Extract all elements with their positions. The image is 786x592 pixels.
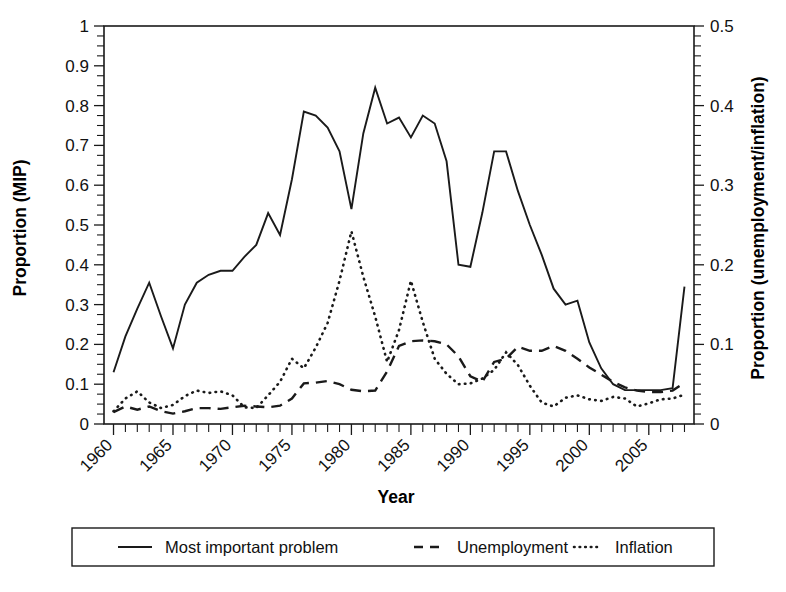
- y-tick-label-left: 0.2: [65, 335, 89, 354]
- y-tick-label-right: 0.2: [710, 256, 734, 275]
- chart-figure: 1960196519701975198019851990199520002005…: [0, 0, 786, 592]
- chart-legend: Most important problemUnemploymentInflat…: [72, 528, 714, 566]
- series-line-unemployment: [114, 340, 685, 413]
- y-tick-label-right: 0: [710, 415, 719, 434]
- y-tick-label-left: 0.5: [65, 216, 89, 235]
- series-line-inflation: [114, 231, 685, 411]
- y-tick-label-left: 0.9: [65, 57, 89, 76]
- y-tick-label-left: 0: [80, 415, 89, 434]
- x-tick-label: 1975: [255, 435, 295, 475]
- x-tick-label: 1990: [433, 435, 473, 475]
- x-axis-tick-labels: 1960196519701975198019851990199520002005: [76, 435, 651, 475]
- y-tick-label-left: 1: [80, 17, 89, 36]
- x-axis-ticks: [114, 424, 685, 435]
- y-axis-left-ticks: [94, 26, 104, 424]
- legend-label: Inflation: [615, 538, 673, 556]
- y-tick-label-right: 0.5: [710, 17, 734, 36]
- y-axis-left-tick-labels: 00.10.20.30.40.50.60.70.80.91: [65, 17, 89, 434]
- y-tick-label-left: 0.1: [65, 375, 89, 394]
- x-tick-label: 1995: [492, 435, 532, 475]
- x-tick-label: 2000: [552, 435, 592, 475]
- x-tick-label: 1985: [374, 435, 414, 475]
- series-lines: [114, 88, 685, 414]
- y-axis-left-title: Proportion (MIP): [10, 159, 30, 296]
- x-tick-label: 1965: [136, 435, 176, 475]
- x-tick-label: 2005: [611, 435, 651, 475]
- y-tick-label-left: 0.3: [65, 296, 89, 315]
- y-axis-right-ticks: [694, 26, 704, 424]
- legend-label: Most important problem: [165, 538, 338, 556]
- legend-label: Unemployment: [457, 538, 568, 556]
- y-tick-label-left: 0.6: [65, 176, 89, 195]
- x-axis-title: Year: [378, 487, 415, 507]
- plot-frame: [104, 26, 694, 424]
- y-axis-right-tick-labels: 00.10.20.30.40.5: [710, 17, 734, 434]
- y-axis-right-title: Proportion (unemployment/inflation): [748, 76, 768, 379]
- y-tick-label-right: 0.3: [710, 176, 734, 195]
- x-tick-label: 1980: [314, 435, 354, 475]
- x-tick-label: 1970: [195, 435, 235, 475]
- y-tick-label-right: 0.4: [710, 97, 734, 116]
- y-tick-label-left: 0.8: [65, 97, 89, 116]
- y-tick-label-right: 0.1: [710, 335, 734, 354]
- y-tick-label-left: 0.4: [65, 256, 89, 275]
- x-tick-label: 1960: [76, 435, 116, 475]
- line-chart: 1960196519701975198019851990199520002005…: [0, 0, 786, 592]
- y-tick-label-left: 0.7: [65, 136, 89, 155]
